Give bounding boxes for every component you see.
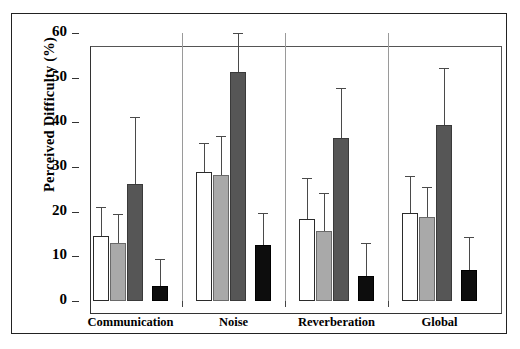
bar bbox=[402, 213, 418, 301]
bar bbox=[299, 219, 315, 301]
figure-canvas: Perceived Difficulty (%) 0102030405060 C… bbox=[0, 0, 520, 349]
bar bbox=[358, 276, 374, 301]
y-tick-mark bbox=[72, 33, 79, 34]
error-bar-line bbox=[101, 207, 102, 236]
error-bar-cap bbox=[258, 213, 268, 214]
bar bbox=[127, 184, 143, 301]
bar bbox=[316, 231, 332, 301]
error-bar-line bbox=[263, 213, 264, 244]
bar bbox=[461, 270, 477, 301]
x-category-label: Global bbox=[378, 315, 501, 330]
bar bbox=[196, 172, 212, 301]
error-bar-cap bbox=[216, 136, 226, 137]
error-bar-cap bbox=[130, 117, 140, 118]
y-tick-mark bbox=[72, 256, 79, 257]
y-tick-mark bbox=[72, 78, 79, 79]
bar bbox=[152, 286, 168, 301]
error-bar-line bbox=[444, 68, 445, 126]
group-separator bbox=[285, 33, 286, 301]
error-bar-cap bbox=[302, 178, 312, 179]
bar bbox=[333, 138, 349, 301]
error-bar-cap bbox=[336, 88, 346, 89]
x-tick-mark bbox=[285, 301, 286, 307]
error-bar-cap bbox=[361, 243, 371, 244]
error-bar-cap bbox=[405, 176, 415, 177]
y-tick-mark bbox=[72, 167, 79, 168]
error-bar-line bbox=[118, 214, 119, 243]
group-separator bbox=[388, 33, 389, 301]
y-tick-mark bbox=[72, 122, 79, 123]
y-tick-label: 40 bbox=[25, 112, 67, 129]
bar bbox=[419, 217, 435, 301]
y-tick-label: 60 bbox=[25, 23, 67, 40]
error-bar-line bbox=[366, 243, 367, 277]
error-bar-cap bbox=[113, 214, 123, 215]
error-bar-cap bbox=[96, 207, 106, 208]
error-bar-line bbox=[204, 143, 205, 172]
y-tick-label: 10 bbox=[25, 246, 67, 263]
x-tick-mark bbox=[388, 301, 389, 307]
y-tick-label: 30 bbox=[25, 157, 67, 174]
bar bbox=[110, 243, 126, 301]
bar bbox=[436, 125, 452, 301]
error-bar-line bbox=[160, 259, 161, 286]
error-bar-cap bbox=[422, 187, 432, 188]
error-bar-cap bbox=[199, 143, 209, 144]
error-bar-line bbox=[427, 187, 428, 217]
bar bbox=[230, 72, 246, 301]
y-tick-mark bbox=[72, 301, 79, 302]
bar bbox=[255, 245, 271, 301]
error-bar-line bbox=[221, 136, 222, 175]
error-bar-cap bbox=[155, 259, 165, 260]
error-bar-cap bbox=[319, 193, 329, 194]
error-bar-line bbox=[324, 193, 325, 231]
error-bar-line bbox=[238, 33, 239, 72]
bar bbox=[213, 175, 229, 301]
figure-border: Perceived Difficulty (%) 0102030405060 C… bbox=[11, 13, 507, 334]
y-tick-label: 0 bbox=[25, 291, 67, 308]
bar bbox=[93, 236, 109, 301]
group-separator bbox=[182, 33, 183, 301]
error-bar-cap bbox=[439, 68, 449, 69]
error-bar-line bbox=[469, 237, 470, 270]
y-tick-label: 20 bbox=[25, 202, 67, 219]
error-bar-line bbox=[135, 117, 136, 184]
error-bar-line bbox=[410, 176, 411, 213]
error-bar-line bbox=[341, 88, 342, 138]
y-tick-mark bbox=[72, 212, 79, 213]
error-bar-cap bbox=[233, 33, 243, 34]
x-tick-mark bbox=[182, 301, 183, 307]
error-bar-cap bbox=[464, 237, 474, 238]
y-tick-label: 50 bbox=[25, 68, 67, 85]
error-bar-line bbox=[307, 178, 308, 220]
